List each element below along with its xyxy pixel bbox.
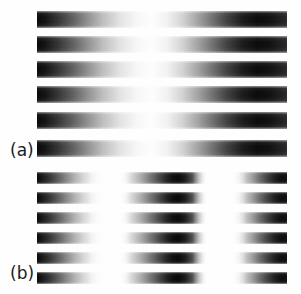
grating-segment-left bbox=[37, 172, 107, 184]
grating-gradient bbox=[37, 232, 107, 244]
grating-segment-middle bbox=[119, 172, 207, 184]
grating-bar bbox=[37, 140, 287, 157]
grating-gradient bbox=[232, 232, 287, 244]
grating-bar bbox=[37, 11, 287, 28]
grating-gradient bbox=[232, 172, 287, 184]
grating-gradient bbox=[119, 252, 207, 264]
grating-gradient bbox=[119, 172, 207, 184]
grating-gradient bbox=[232, 272, 287, 284]
grating-gradient bbox=[37, 272, 107, 284]
grating-bar bbox=[37, 112, 287, 129]
panel-a-label: (a) bbox=[10, 142, 34, 159]
grating-segment-middle bbox=[119, 272, 207, 284]
grating-segment-left bbox=[37, 192, 107, 204]
grating-gradient bbox=[37, 11, 287, 28]
grating-gradient bbox=[37, 192, 107, 204]
grating-segment-left bbox=[37, 272, 107, 284]
grating-segment-left bbox=[37, 252, 107, 264]
grating-segment-middle bbox=[119, 192, 207, 204]
grating-bar bbox=[37, 86, 287, 103]
grating-segment-right bbox=[232, 192, 287, 204]
grating-gradient bbox=[37, 61, 287, 78]
grating-gradient bbox=[232, 252, 287, 264]
grating-gradient bbox=[37, 140, 287, 157]
grating-gradient bbox=[119, 272, 207, 284]
figure-container: (a) (b) bbox=[0, 0, 301, 294]
grating-gradient bbox=[37, 86, 287, 103]
grating-gradient bbox=[37, 212, 107, 224]
grating-gradient bbox=[232, 192, 287, 204]
grating-bar bbox=[37, 61, 287, 78]
grating-bar bbox=[37, 36, 287, 53]
grating-segment-right bbox=[232, 252, 287, 264]
grating-gradient bbox=[37, 172, 107, 184]
grating-segment-right bbox=[232, 232, 287, 244]
grating-gradient bbox=[232, 212, 287, 224]
grating-gradient bbox=[119, 192, 207, 204]
grating-gradient bbox=[37, 112, 287, 129]
grating-gradient bbox=[119, 212, 207, 224]
grating-gradient bbox=[37, 252, 107, 264]
grating-gradient bbox=[37, 36, 287, 53]
grating-segment-right bbox=[232, 172, 287, 184]
grating-segment-middle bbox=[119, 252, 207, 264]
grating-segment-left bbox=[37, 232, 107, 244]
grating-gradient bbox=[119, 232, 207, 244]
grating-segment-right bbox=[232, 212, 287, 224]
grating-segment-left bbox=[37, 212, 107, 224]
panel-b-label: (b) bbox=[10, 265, 34, 282]
grating-segment-middle bbox=[119, 212, 207, 224]
grating-segment-middle bbox=[119, 232, 207, 244]
grating-segment-right bbox=[232, 272, 287, 284]
